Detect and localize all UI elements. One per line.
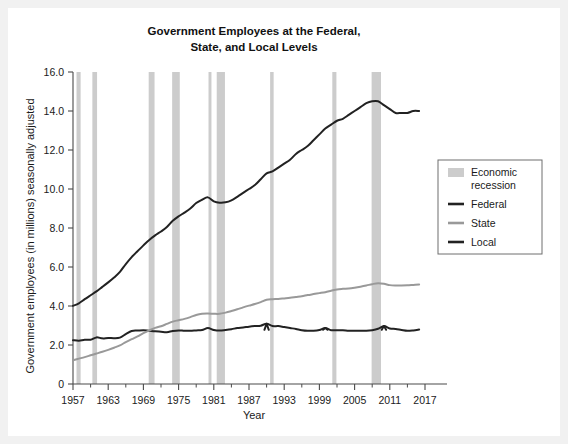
recession-band xyxy=(372,72,381,384)
recession-band xyxy=(332,72,336,384)
recession-band xyxy=(172,72,180,384)
y-tick-label: 10.0 xyxy=(44,183,65,195)
recession-band xyxy=(149,72,155,384)
x-tick-label: 1999 xyxy=(308,394,332,406)
chart-title-line-2: State, and Local Levels xyxy=(190,41,317,53)
y-tick-label: 14.0 xyxy=(44,105,65,117)
x-tick-label: 2011 xyxy=(379,394,402,406)
government-employees-line-chart: 02.04.06.08.010.012.014.016.019571963196… xyxy=(8,8,560,436)
x-tick-label: 1963 xyxy=(97,394,121,406)
series-line-state xyxy=(73,283,419,360)
x-tick-label: 1969 xyxy=(132,394,156,406)
legend-label-economic-recession-line1: Economic xyxy=(471,166,517,178)
recession-band xyxy=(270,72,274,384)
chart-title-line-1: Government Employees at the Federal, xyxy=(148,25,361,37)
federal-census-spike xyxy=(323,328,327,330)
legend-label-economic-recession-line2: recession xyxy=(471,179,516,191)
legend-label-state: State xyxy=(471,217,496,229)
series-line-local xyxy=(73,101,419,306)
x-tick-label: 2005 xyxy=(343,394,367,406)
x-tick-label: 1975 xyxy=(167,394,191,406)
x-axis-title: Year xyxy=(243,409,266,421)
x-tick-label: 2017 xyxy=(413,394,437,406)
recession-band xyxy=(217,72,225,384)
chart-card: 02.04.06.08.010.012.014.016.019571963196… xyxy=(8,8,560,436)
y-tick-label: 12.0 xyxy=(44,144,65,156)
series-line-federal xyxy=(73,324,419,341)
x-tick-label: 1957 xyxy=(61,394,85,406)
x-tick-label: 1981 xyxy=(202,394,226,406)
legend-label-federal: Federal xyxy=(471,198,507,210)
series-group xyxy=(73,101,419,360)
x-tick-label: 1993 xyxy=(273,394,297,406)
y-tick-label: 2.0 xyxy=(49,339,64,351)
chart-svg: 02.04.06.08.010.012.014.016.019571963196… xyxy=(8,8,560,436)
chart-legend: Economic recession Federal State Local xyxy=(438,160,542,254)
y-tick-label: 6.0 xyxy=(49,261,64,273)
x-tick-label: 1987 xyxy=(237,394,261,406)
recession-band xyxy=(209,72,212,384)
y-tick-label: 0 xyxy=(58,378,64,390)
y-tick-label: 8.0 xyxy=(49,222,64,234)
y-tick-label: 4.0 xyxy=(49,300,64,312)
legend-label-local: Local xyxy=(471,236,496,248)
recession-band xyxy=(77,72,81,384)
legend-swatch-economic-recession xyxy=(448,168,464,177)
y-tick-label: 16.0 xyxy=(44,66,65,78)
y-axis-title: Government employees (in millions) seaso… xyxy=(24,98,36,373)
